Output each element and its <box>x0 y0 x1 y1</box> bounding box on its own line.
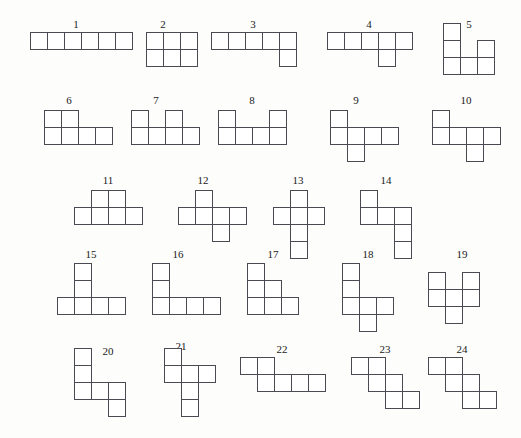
shape-label-1: 1 <box>66 19 86 30</box>
cell <box>149 128 166 145</box>
cell <box>444 41 461 58</box>
hexomino-shape-2 <box>146 32 199 68</box>
shape-canvas-8 <box>218 110 288 146</box>
cell <box>348 128 365 145</box>
cell <box>147 50 164 67</box>
cell <box>219 128 236 145</box>
shape-label-6: 6 <box>59 95 79 106</box>
cell <box>62 128 79 145</box>
shape-label-10: 10 <box>456 95 476 106</box>
hexomino-shape-5 <box>443 23 496 76</box>
hexomino-shape-1 <box>30 32 134 51</box>
cell <box>153 298 170 315</box>
shape-label-13: 13 <box>288 175 308 186</box>
shape-canvas-22 <box>240 357 327 393</box>
cell <box>132 111 149 128</box>
cell <box>48 33 65 50</box>
hexomino-shape-17 <box>247 263 300 316</box>
shape-canvas-6 <box>44 110 114 146</box>
cell <box>343 281 360 298</box>
cell <box>484 128 501 145</box>
cell <box>62 111 79 128</box>
cell <box>164 33 181 50</box>
cell <box>292 375 309 392</box>
hexomino-shape-7 <box>131 110 201 146</box>
hexomino-shape-3 <box>211 32 298 68</box>
hexomino-shape-4 <box>327 32 414 68</box>
shape-canvas-4 <box>327 32 414 68</box>
cell <box>362 33 379 50</box>
cell <box>263 33 280 50</box>
cell <box>395 242 412 259</box>
hexomino-shape-18 <box>342 263 395 333</box>
shape-label-16: 16 <box>168 249 188 260</box>
hexomino-shape-16 <box>152 263 222 316</box>
cell <box>212 33 229 50</box>
shape-label-18: 18 <box>358 249 378 260</box>
cell <box>92 191 109 208</box>
cell <box>109 208 126 225</box>
cell <box>369 375 386 392</box>
shape-canvas-2 <box>146 32 199 68</box>
cell <box>379 50 396 67</box>
cell <box>395 208 412 225</box>
shape-canvas-15 <box>57 263 127 316</box>
shape-canvas-7 <box>131 110 201 146</box>
cell <box>199 366 216 383</box>
cell <box>92 383 109 400</box>
cell <box>75 366 92 383</box>
cell <box>153 281 170 298</box>
cell <box>361 191 378 208</box>
cell <box>386 375 403 392</box>
shape-canvas-10 <box>432 110 502 163</box>
cell <box>275 375 292 392</box>
cell <box>429 273 446 290</box>
hexomino-shape-22 <box>240 357 327 393</box>
shape-canvas-18 <box>342 263 395 333</box>
hexomino-shape-24 <box>428 357 498 410</box>
cell <box>204 298 221 315</box>
cell <box>96 128 113 145</box>
shape-canvas-5 <box>443 23 496 76</box>
shape-label-7: 7 <box>146 95 166 106</box>
shape-canvas-23 <box>351 357 421 410</box>
cell <box>196 191 213 208</box>
cell <box>109 400 126 417</box>
cell <box>132 128 149 145</box>
hexomino-figure: 123456789101112131415161718192021222324 <box>0 0 521 438</box>
cell <box>291 191 308 208</box>
cell <box>166 128 183 145</box>
cell <box>343 264 360 281</box>
cell <box>446 375 463 392</box>
cell <box>396 33 413 50</box>
cell <box>270 128 287 145</box>
cell <box>446 290 463 307</box>
shape-label-19: 19 <box>452 249 472 260</box>
cell <box>450 128 467 145</box>
cell <box>58 298 75 315</box>
cell <box>196 208 213 225</box>
cell <box>379 33 396 50</box>
cell <box>187 298 204 315</box>
cell <box>75 298 92 315</box>
cell <box>265 281 282 298</box>
cell <box>153 264 170 281</box>
shape-label-4: 4 <box>359 19 379 30</box>
cell <box>147 33 164 50</box>
cell <box>429 358 446 375</box>
cell <box>230 208 247 225</box>
cell <box>478 58 495 75</box>
cell <box>166 111 183 128</box>
shape-label-8: 8 <box>242 95 262 106</box>
cell <box>280 50 297 67</box>
cell <box>219 111 236 128</box>
shape-canvas-12 <box>178 190 248 243</box>
cell <box>246 33 263 50</box>
cell <box>377 298 394 315</box>
cell <box>480 392 497 409</box>
cell <box>270 111 287 128</box>
shape-label-24: 24 <box>452 344 472 355</box>
cell <box>182 383 199 400</box>
cell <box>248 281 265 298</box>
shape-canvas-1 <box>30 32 134 51</box>
